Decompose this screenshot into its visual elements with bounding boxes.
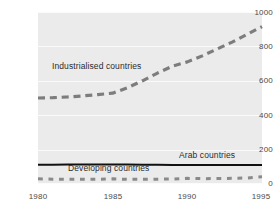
ytick-label-600: 600 <box>239 76 273 85</box>
series-label-arab: Arab countries <box>179 150 235 160</box>
ytick-label-400: 400 <box>239 111 273 120</box>
gridline-400 <box>38 115 262 116</box>
series-label-industrialised: Industrialised countries <box>52 61 141 71</box>
line-chart: 1000 800 600 400 200 0 1980 1985 1990 19… <box>0 0 273 217</box>
series-label-developing: Developing countries <box>68 163 149 173</box>
gridline-800 <box>38 46 262 47</box>
ytick-label-200: 200 <box>239 145 273 154</box>
xtick-label-1980: 1980 <box>18 192 58 201</box>
gridline-0 <box>38 183 262 184</box>
xtick-label-1995: 1995 <box>241 192 273 201</box>
gridline-1000 <box>38 12 262 13</box>
xtick-label-1990: 1990 <box>167 192 207 201</box>
ytick-label-800: 800 <box>239 42 273 51</box>
ytick-label-0: 0 <box>239 179 273 188</box>
xtick-label-1985: 1985 <box>93 192 133 201</box>
gridline-600 <box>38 81 262 82</box>
ytick-label-1000: 1000 <box>239 8 273 17</box>
